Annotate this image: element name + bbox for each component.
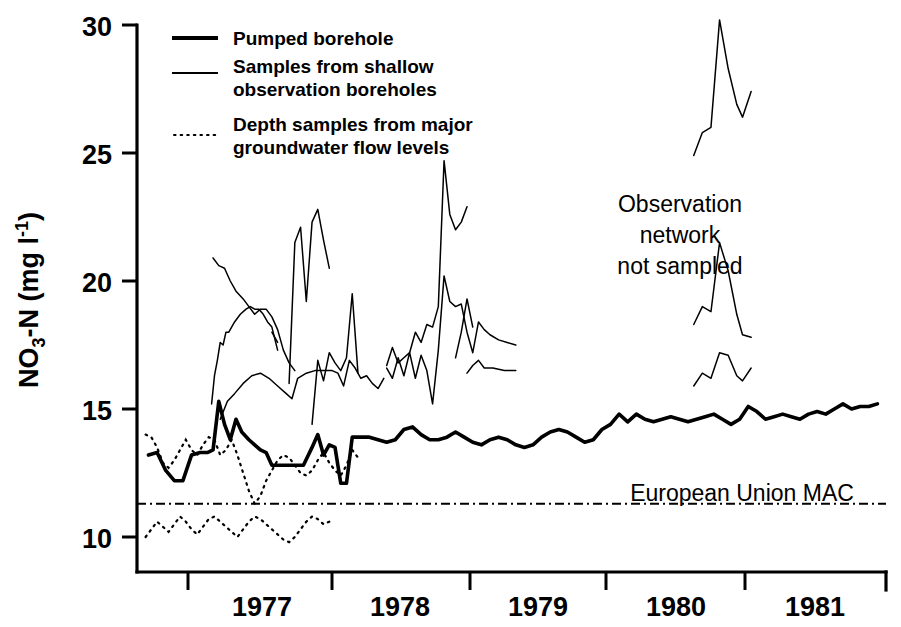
series-shallow-segment-7 xyxy=(387,276,516,404)
series-shallow-segment-0 xyxy=(212,307,278,404)
y-axis-title-prefix: NO xyxy=(14,348,44,389)
series-shallow-segment-8 xyxy=(467,360,516,373)
y-axis-title-group: NO3-N (mg l-1) xyxy=(12,212,49,388)
series-shallow-segment-5 xyxy=(312,294,358,425)
y-tick-label-25: 25 xyxy=(82,140,112,170)
legend-label-depth-samples-line2: groundwater flow levels xyxy=(233,137,449,158)
x-tick-label-1979: 1979 xyxy=(508,592,568,622)
annotation-eu-mac-label: European Union MAC xyxy=(630,480,854,506)
legend-label-shallow-boreholes-line2: observation boreholes xyxy=(233,79,437,100)
series-shallow-segment-4 xyxy=(289,209,329,383)
axes-group: 30 25 20 15 10 1977 1978 1979 1980 1981 xyxy=(82,12,886,622)
annotation-observation-line2: network xyxy=(640,222,721,248)
chart-page: 30 25 20 15 10 1977 1978 1979 1980 1981 … xyxy=(0,0,901,627)
x-tick-label-1977: 1977 xyxy=(232,592,292,622)
plot-annotations: Observation network not sampled European… xyxy=(617,191,854,506)
series-depth-segment-0 xyxy=(146,435,358,504)
y-axis-title-mid: -N (mg l xyxy=(14,237,44,338)
y-tick-label-10: 10 xyxy=(82,524,112,554)
annotation-observation-line3: not sampled xyxy=(617,253,742,279)
series-shallow-segment-1 xyxy=(213,258,295,371)
series-depth-segment-1 xyxy=(146,517,330,543)
legend-label-shallow-boreholes-line1: Samples from shallow xyxy=(233,56,434,77)
chart-legend: Pumped borehole Samples from shallow obs… xyxy=(172,28,473,158)
series-shallow-segment-9 xyxy=(456,299,473,358)
series-shallow-segment-3 xyxy=(220,360,384,419)
y-tick-label-30: 30 xyxy=(82,12,112,42)
x-tick-label-1981: 1981 xyxy=(785,592,845,622)
y-axis-title: NO3-N (mg l-1) xyxy=(12,212,49,388)
series-shallow-segment-6 xyxy=(387,161,467,366)
series-pumped-segment-0 xyxy=(148,401,877,483)
legend-label-depth-samples-line1: Depth samples from major xyxy=(233,114,473,135)
x-tick-label-1980: 1980 xyxy=(646,592,706,622)
y-tick-label-20: 20 xyxy=(82,268,112,298)
y-axis-title-subscript: 3 xyxy=(29,338,49,348)
series-shallow-segment-10 xyxy=(694,20,751,156)
nitrate-timeseries-chart: 30 25 20 15 10 1977 1978 1979 1980 1981 … xyxy=(0,0,901,627)
annotation-observation-line1: Observation xyxy=(618,191,742,217)
series-shallow-segment-12 xyxy=(694,353,751,386)
y-axis-title-suffix: ) xyxy=(14,212,44,221)
y-tick-label-15: 15 xyxy=(82,396,112,426)
legend-label-pumped-borehole: Pumped borehole xyxy=(233,28,393,49)
x-tick-label-1978: 1978 xyxy=(370,592,430,622)
y-axis-title-superscript: -1 xyxy=(12,221,32,237)
